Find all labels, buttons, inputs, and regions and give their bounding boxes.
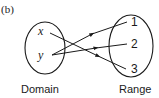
domain-element-x: x (38, 24, 43, 39)
range-element-2: 2 (131, 37, 138, 51)
range-element-1: 1 (131, 15, 138, 29)
domain-label: Domain (21, 83, 59, 95)
range-element-3: 3 (131, 62, 138, 76)
domain-element-y: y (38, 48, 43, 63)
range-label: Range (119, 83, 151, 95)
function-mapping-diagram: (b) x y 1 2 3 Domain Range (0, 0, 159, 98)
domain-ellipse (25, 22, 65, 74)
panel-label: (b) (1, 3, 14, 15)
